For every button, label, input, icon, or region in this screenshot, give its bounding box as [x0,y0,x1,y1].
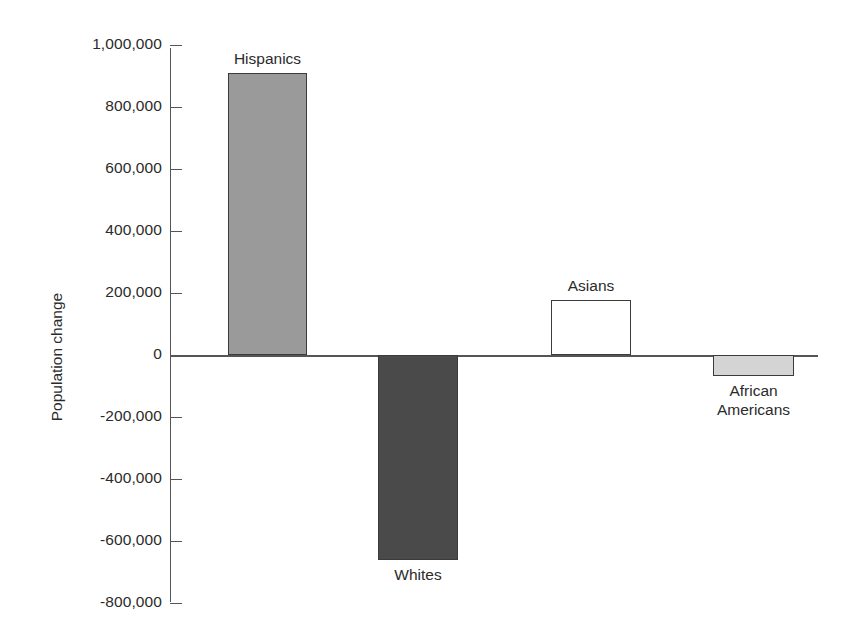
y-axis-tick [170,231,182,232]
bar-label-whites: Whites [318,565,518,584]
bar-label-hispanics: Hispanics [168,49,368,68]
y-axis-spine [170,48,171,602]
bar-label-asians: Asians [491,276,691,295]
y-axis-tick-label: 0 [52,345,162,363]
y-axis-tick-label: -200,000 [52,407,162,425]
y-axis-tick [170,603,182,604]
y-axis-tick-label: 1,000,000 [52,35,162,53]
y-axis-tick-label: 600,000 [52,159,162,177]
y-axis-tick [170,107,182,108]
y-axis-tick-label: -800,000 [52,593,162,611]
y-axis-tick [170,169,182,170]
y-axis-tick-label: 400,000 [52,221,162,239]
bar-whites [378,355,458,560]
bar-label-african-americans: AfricanAmericans [654,381,854,419]
y-axis-tick-label: 800,000 [52,97,162,115]
bar-asians [551,300,631,355]
y-axis-tick-label: -600,000 [52,531,162,549]
bar-african-americans [713,355,794,376]
y-axis-tick [170,417,182,418]
bar-hispanics [228,73,307,355]
y-axis-tick-label: -400,000 [52,469,162,487]
y-axis-tick [170,479,182,480]
y-axis-tick [170,293,182,294]
bar-chart: Population change 1,000,000800,000600,00… [0,0,861,642]
y-axis-tick [170,541,182,542]
y-axis-tick [170,45,182,46]
y-axis-tick-label: 200,000 [52,283,162,301]
